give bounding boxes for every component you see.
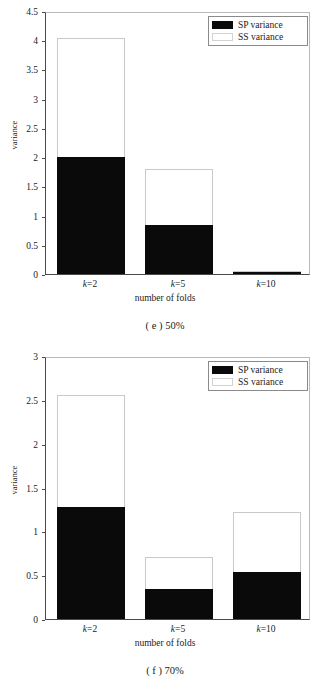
figure-caption-f: ( f ) 70% xyxy=(0,665,330,676)
legend-e: SP variance SS variance xyxy=(208,16,308,46)
y-tick-label: 2 xyxy=(0,440,38,450)
bar-group xyxy=(57,356,125,619)
legend-label-ss: SS variance xyxy=(238,32,283,43)
y-tick-label: 3 xyxy=(0,95,38,105)
bar-segment-sp xyxy=(57,157,125,274)
bar-group xyxy=(145,356,213,619)
bars-layer-f xyxy=(46,358,309,619)
chart-e: variance 00.511.522.533.544.5 k=2k=5k=10… xyxy=(0,0,330,300)
bar-segment-sp xyxy=(233,272,301,274)
y-tick-label: 2.5 xyxy=(0,124,38,134)
plot-area-f xyxy=(45,357,310,620)
legend-swatch-sp-icon xyxy=(212,21,233,29)
y-tick-label: 2 xyxy=(0,153,38,163)
y-tick-label: 3.5 xyxy=(0,65,38,75)
y-tick-label: 1.5 xyxy=(0,484,38,494)
y-tick-mark xyxy=(42,620,45,621)
legend-swatch-ss-icon xyxy=(212,33,233,41)
plot-area-e xyxy=(45,12,310,275)
bar-group xyxy=(57,11,125,274)
x-tick-label: k=10 xyxy=(256,279,275,289)
bars-layer-e xyxy=(46,13,309,274)
y-tick-label: 1.5 xyxy=(0,182,38,192)
y-tick-label: 3 xyxy=(0,352,38,362)
legend-swatch-sp-icon xyxy=(212,366,233,374)
legend-row-sp-e: SP variance xyxy=(212,19,304,31)
y-tick-label: 0 xyxy=(0,270,38,280)
x-tick-label: k=10 xyxy=(256,624,275,634)
y-tick-label: 0.5 xyxy=(0,571,38,581)
y-tick-mark xyxy=(42,275,45,276)
x-axis-title-e: number of folds xyxy=(0,293,330,303)
figure-caption-e: ( e ) 50% xyxy=(0,320,330,331)
legend-row-sp-f: SP variance xyxy=(212,364,304,376)
x-tick-label: k=2 xyxy=(83,279,97,289)
figure-f-70-percent: variance 00.511.522.53 k=2k=5k=10 number… xyxy=(0,345,330,691)
x-tick-label: k=5 xyxy=(171,624,185,634)
legend-label-sp: SP variance xyxy=(238,365,283,376)
bar-group xyxy=(233,11,301,274)
legend-swatch-ss-icon xyxy=(212,378,233,386)
figure-e-50-percent: variance 00.511.522.533.544.5 k=2k=5k=10… xyxy=(0,0,330,345)
y-tick-label: 1 xyxy=(0,527,38,537)
y-tick-label: 0 xyxy=(0,615,38,625)
bar-segment-sp xyxy=(57,507,125,619)
legend-label-ss: SS variance xyxy=(238,377,283,388)
bar-group xyxy=(233,356,301,619)
bar-group xyxy=(145,11,213,274)
y-axis-title-f: variance xyxy=(9,450,19,510)
bar-segment-sp xyxy=(145,589,213,619)
legend-label-sp: SP variance xyxy=(238,20,283,31)
x-tick-label: k=5 xyxy=(171,279,185,289)
y-tick-label: 4.5 xyxy=(0,7,38,17)
bar-segment-sp xyxy=(145,225,213,274)
legend-f: SP variance SS variance xyxy=(208,361,308,391)
y-tick-label: 1 xyxy=(0,212,38,222)
x-tick-label: k=2 xyxy=(83,624,97,634)
chart-f: variance 00.511.522.53 k=2k=5k=10 number… xyxy=(0,345,330,645)
legend-row-ss-e: SS variance xyxy=(212,31,304,43)
y-tick-label: 4 xyxy=(0,36,38,46)
legend-row-ss-f: SS variance xyxy=(212,376,304,388)
bar-segment-sp xyxy=(233,572,301,619)
x-axis-title-f: number of folds xyxy=(0,638,330,648)
y-tick-label: 0.5 xyxy=(0,241,38,251)
y-tick-label: 2.5 xyxy=(0,396,38,406)
